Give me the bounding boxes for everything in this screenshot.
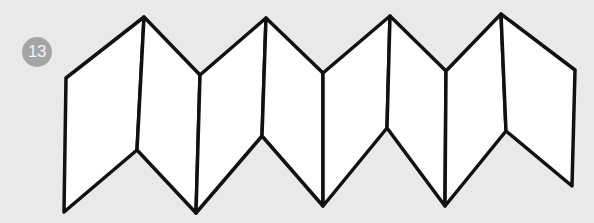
panel-3 <box>196 18 266 213</box>
panel-8 <box>501 14 575 186</box>
zigzag-fold-diagram <box>0 0 594 223</box>
panel-6 <box>387 16 446 206</box>
panel-7 <box>445 14 506 206</box>
panel-1 <box>64 17 144 212</box>
panel-5 <box>323 16 390 206</box>
panel-2 <box>137 17 200 213</box>
panel-4 <box>262 18 323 206</box>
